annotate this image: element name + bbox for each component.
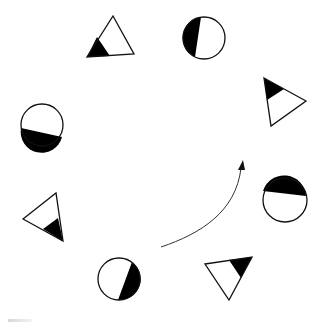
triangle-left-triangle-icon: [23, 193, 63, 241]
circle-left-circle-icon: [21, 104, 63, 153]
circle-bottom-circle-icon: [98, 258, 141, 300]
diagram-canvas: [0, 0, 325, 323]
circle-right-circle-icon: [263, 175, 307, 222]
scan-artifact: [8, 319, 32, 322]
shapes-group: [21, 16, 307, 300]
circle-top-circle-icon: [183, 17, 225, 59]
arrow-icon: [161, 160, 245, 247]
arrowhead-icon: [238, 160, 245, 170]
triangle-bottom-right-triangle-icon: [205, 257, 252, 300]
triangle-right-triangle-icon: [264, 78, 306, 126]
triangle-top-left-triangle-icon: [87, 16, 134, 57]
